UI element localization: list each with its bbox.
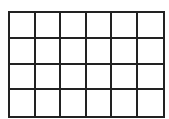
grid-cell	[61, 65, 87, 91]
grid-cell	[87, 65, 113, 91]
grid-cell	[112, 13, 138, 39]
grid-cell	[112, 39, 138, 65]
grid-cell	[112, 90, 138, 116]
grid-diagram	[8, 11, 165, 118]
grid-cell	[36, 90, 62, 116]
grid-cell	[61, 39, 87, 65]
grid-cell	[138, 39, 164, 65]
grid-cell	[138, 65, 164, 91]
grid-cell	[10, 90, 36, 116]
grid-cell	[138, 90, 164, 116]
grid-cell	[87, 39, 113, 65]
grid-cell	[10, 13, 36, 39]
grid-cell	[61, 13, 87, 39]
grid-cell	[87, 90, 113, 116]
grid-cell	[87, 13, 113, 39]
grid-cell	[10, 39, 36, 65]
grid-cell	[61, 90, 87, 116]
grid-cell	[36, 65, 62, 91]
grid-cell	[36, 13, 62, 39]
grid-cell	[36, 39, 62, 65]
grid-cell	[10, 65, 36, 91]
grid-cell	[138, 13, 164, 39]
grid-cell	[112, 65, 138, 91]
